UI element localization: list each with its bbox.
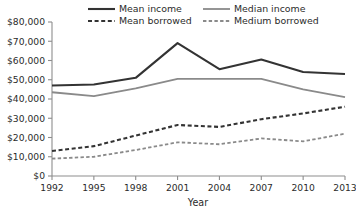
x-axis-title: Year bbox=[187, 197, 208, 208]
chart-series bbox=[52, 43, 345, 159]
y-tick-label: $30,000 bbox=[7, 113, 45, 124]
x-tick-label: 2010 bbox=[291, 182, 315, 193]
x-tick-label: 1998 bbox=[124, 182, 148, 193]
y-tick-label: $70,000 bbox=[7, 36, 45, 47]
chart-container: Mean incomeMedian incomeMean borrowedMed… bbox=[0, 0, 356, 219]
y-axis-ticks: $0$10,000$20,000$30,000$40,000$50,000$60… bbox=[7, 16, 52, 181]
series-line-median-income bbox=[52, 79, 345, 97]
x-tick-label: 1992 bbox=[40, 182, 63, 193]
y-tick-label: $40,000 bbox=[7, 93, 45, 104]
y-tick-label: $20,000 bbox=[7, 132, 45, 143]
y-tick-label: $50,000 bbox=[7, 74, 45, 85]
line-chart: Mean incomeMedian incomeMean borrowedMed… bbox=[0, 0, 356, 219]
legend-label-medium-borrowed: Medium borrowed bbox=[234, 15, 319, 26]
legend-label-median-income: Median income bbox=[234, 3, 306, 14]
legend-label-mean-borrowed: Mean borrowed bbox=[119, 15, 192, 26]
series-line-medium-borrowed bbox=[52, 134, 345, 159]
chart-axes bbox=[52, 22, 345, 176]
chart-legend: Mean incomeMedian incomeMean borrowedMed… bbox=[88, 3, 319, 26]
y-tick-label: $80,000 bbox=[7, 16, 45, 27]
x-tick-label: 2007 bbox=[250, 182, 274, 193]
legend-label-mean-income: Mean income bbox=[119, 3, 182, 14]
x-tick-label: 2001 bbox=[166, 182, 189, 193]
x-tick-label: 2013 bbox=[333, 182, 356, 193]
y-tick-label: $60,000 bbox=[7, 55, 45, 66]
series-line-mean-borrowed bbox=[52, 107, 345, 151]
x-axis-ticks: 19921995199820012004200720102013 bbox=[40, 176, 356, 193]
y-tick-label: $0 bbox=[33, 170, 45, 181]
x-tick-label: 1995 bbox=[82, 182, 106, 193]
x-tick-label: 2004 bbox=[208, 182, 232, 193]
y-tick-label: $10,000 bbox=[7, 151, 45, 162]
